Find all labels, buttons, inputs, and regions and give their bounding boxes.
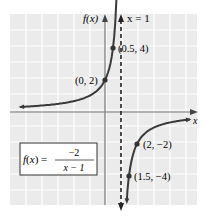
data-point [110,45,115,50]
formula-lhs: f(x) = [23,153,47,166]
point-label: (0, 2) [75,75,98,87]
data-point [102,77,107,82]
function-graph: f(x) x x = 1 (0.5, 4)(0, 2)(2, −2)(1.5, … [0,0,206,219]
y-axis-label: f(x) [83,12,99,25]
formula-numerator: −2 [69,147,80,158]
point-label: (1.5, −4) [134,171,171,183]
data-point [134,141,139,146]
asymptote-arrow-down-icon [118,203,124,211]
asymptote-label: x = 1 [127,12,150,24]
point-label: (0.5, 4) [118,43,149,55]
data-point [126,173,131,178]
point-label: (2, −2) [143,139,172,151]
formula-denominator: x − 1 [62,162,84,173]
x-axis-label: x [192,115,198,126]
